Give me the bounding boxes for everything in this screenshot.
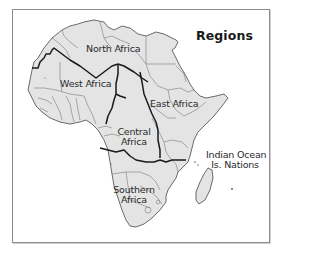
label-line: Africa xyxy=(116,137,152,147)
label-indian-ocean: Indian Ocean Is. Nations xyxy=(206,150,264,170)
island xyxy=(44,77,45,78)
label-line: Africa xyxy=(113,195,155,205)
label-central-africa: Central Africa xyxy=(116,127,152,147)
madagascar xyxy=(196,168,213,204)
label-southern-africa: Southern Africa xyxy=(113,185,155,205)
label-west-africa: West Africa xyxy=(60,79,111,89)
map-title: Regions xyxy=(196,28,253,43)
label-north-africa: North Africa xyxy=(86,44,140,54)
island xyxy=(231,188,233,190)
island xyxy=(194,161,196,163)
label-east-africa: East Africa xyxy=(150,99,198,109)
label-line: Is. Nations xyxy=(206,160,264,170)
island xyxy=(110,163,111,164)
island xyxy=(197,164,198,165)
